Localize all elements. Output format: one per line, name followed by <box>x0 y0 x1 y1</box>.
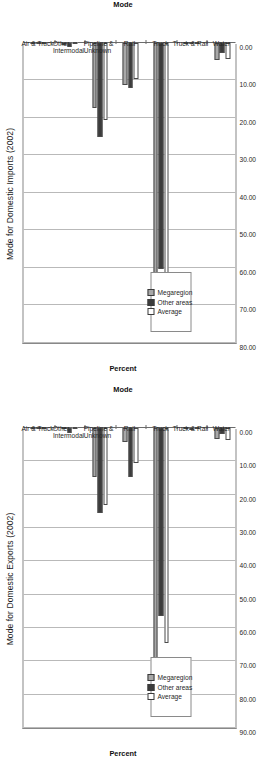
category-tick <box>115 425 116 429</box>
legend-item-mega[interactable]: Megaregion <box>147 674 195 681</box>
bar-megaregion-truck <box>153 43 158 300</box>
legend-item-avg[interactable]: Average <box>147 308 195 315</box>
y-axis-tick-label: 10.00 <box>239 82 256 89</box>
legend-swatch-icon <box>147 674 154 681</box>
bar-average-truck <box>164 428 169 643</box>
bar-megaregion-rail <box>122 43 127 85</box>
y-axis-tick-label: 20.00 <box>239 119 256 126</box>
x-axis-category-label-line: Rail <box>123 425 134 432</box>
category-band <box>115 429 146 728</box>
legend-swatch-icon <box>147 299 154 306</box>
x-axis-category-label: Water <box>212 40 229 47</box>
legend-inner: MegaregionOther areasAverage <box>147 289 195 315</box>
legend-item-other[interactable]: Other areas <box>147 684 195 691</box>
category-band <box>84 429 115 728</box>
legend-item-mega[interactable]: Megaregion <box>147 289 195 296</box>
legend-item-other[interactable]: Other areas <box>147 299 195 306</box>
y-axis-tick-label: 60.00 <box>239 629 256 636</box>
legend-item-label: Average <box>157 693 181 700</box>
chart-imports-x-axis-label: Mode <box>113 0 132 9</box>
x-axis-category-label-line: Truck <box>151 40 167 47</box>
x-axis-category-label: Pipeline &Unknown <box>84 425 114 440</box>
category-tick <box>145 425 146 429</box>
x-axis-category-label-line: Water <box>212 425 229 432</box>
y-axis-tick-label: 50.00 <box>239 232 256 239</box>
bar-average-rail <box>133 428 138 463</box>
legend-swatch-icon <box>147 684 154 691</box>
y-axis-tick-label: 50.00 <box>239 596 256 603</box>
x-axis-category-label: Truck <box>151 425 167 432</box>
bar-average-truck <box>164 43 169 291</box>
y-axis-tick-label: 80.00 <box>239 344 256 351</box>
chart-exports-plot-area <box>22 429 236 729</box>
x-axis-category-label: Water <box>212 425 229 432</box>
legend-item-avg[interactable]: Average <box>147 693 195 700</box>
category-band <box>54 429 85 728</box>
chart-exports-legend: MegaregionOther areasAverage <box>150 657 191 717</box>
y-axis-tick-label: 30.00 <box>239 529 256 536</box>
bar-other-areas-truck <box>158 43 163 269</box>
x-axis-category-label-line: Pipeline & <box>84 425 114 432</box>
bar-other-areas-rail <box>128 428 133 477</box>
chart-imports-legend: MegaregionOther areasAverage <box>150 272 191 332</box>
x-axis-category-label-line: Truck <box>151 425 167 432</box>
legend-swatch-icon <box>147 308 154 315</box>
legend-inner: MegaregionOther areasAverage <box>147 674 195 700</box>
x-axis-category-label: Pipeline &Unknown <box>84 40 114 55</box>
x-axis-category-label-line: Air & Truck <box>21 40 53 47</box>
chart-exports: Mode for Domestic Exports (2002) Percent… <box>0 385 269 773</box>
x-axis-category-label: Rail <box>123 425 134 432</box>
category-band <box>23 44 54 343</box>
figure-page: Mode for Domestic Imports (2002) Percent… <box>0 0 269 773</box>
bar-megaregion-truck <box>153 428 158 685</box>
x-axis-category-label: Truck & Rail <box>172 425 208 432</box>
x-axis-category-label-line: Rail <box>123 40 134 47</box>
x-axis-category-label-line: Other <box>52 425 83 432</box>
category-tick <box>115 40 116 44</box>
x-axis-category-label: Rail <box>123 40 134 47</box>
y-axis-tick-label: 80.00 <box>239 696 256 703</box>
x-axis-category-label-line: Truck & Rail <box>172 40 208 47</box>
x-axis-category-label: Air & Truck <box>21 425 53 432</box>
legend-swatch-icon <box>147 289 154 296</box>
chart-imports-title: Mode for Domestic Imports (2002) <box>4 0 14 388</box>
category-band <box>54 44 85 343</box>
legend-swatch-icon <box>147 693 154 700</box>
x-axis-category-label-line: Intermodal <box>52 432 83 439</box>
y-axis-tick-label: 40.00 <box>239 194 256 201</box>
chart-exports-y-axis-label: Percent <box>109 749 136 758</box>
category-band <box>206 429 237 728</box>
x-axis-category-label-line: Pipeline & <box>84 40 114 47</box>
x-axis-category-label: OtherIntermodal <box>52 40 83 55</box>
bar-other-areas-truck <box>158 428 163 616</box>
bar-average-rail <box>133 43 138 79</box>
y-axis-tick-label: 30.00 <box>239 157 256 164</box>
legend-item-label: Average <box>157 308 181 315</box>
x-axis-category-label: Truck & Rail <box>172 40 208 47</box>
x-axis-category-label: Air & Truck <box>21 40 53 47</box>
category-tick <box>145 40 146 44</box>
y-axis-tick-label: 20.00 <box>239 496 256 503</box>
chart-exports-x-axis-label: Mode <box>113 385 132 394</box>
y-axis-tick-label: 10.00 <box>239 462 256 469</box>
x-axis-category-label-line: Air & Truck <box>21 425 53 432</box>
y-axis-tick-label: 70.00 <box>239 307 256 314</box>
category-band <box>115 44 146 343</box>
x-axis-category-label-line: Truck & Rail <box>172 425 208 432</box>
x-axis-category-label-line: Water <box>212 40 229 47</box>
legend-item-label: Other areas <box>157 684 192 691</box>
x-axis-category-label: Truck <box>151 40 167 47</box>
category-band <box>84 44 115 343</box>
x-axis-category-label-line: Unknown <box>84 432 114 439</box>
chart-imports: Mode for Domestic Imports (2002) Percent… <box>0 0 269 388</box>
x-axis-category-label-line: Other <box>52 40 83 47</box>
y-axis-tick-label: 90.00 <box>239 729 256 736</box>
legend-item-label: Megaregion <box>157 674 192 681</box>
x-axis-category-label-line: Intermodal <box>52 47 83 54</box>
legend-item-label: Other areas <box>157 299 192 306</box>
bar-other-areas-pipeline-unknown <box>97 43 102 137</box>
y-axis-tick-label: 0.00 <box>239 429 252 436</box>
category-band <box>23 429 54 728</box>
legend-item-label: Megaregion <box>157 289 192 296</box>
x-axis-category-label-line: Unknown <box>84 47 114 54</box>
